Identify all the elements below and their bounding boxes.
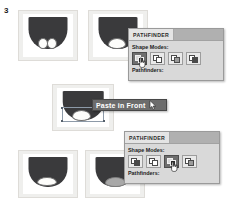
tab-pathfinder-label: PATHFINDER <box>129 135 165 141</box>
artboard-bottom-left <box>18 150 78 198</box>
shape-modes-button-row <box>132 52 220 65</box>
paste-in-front-tooltip[interactable]: Paste in Front <box>92 99 167 111</box>
unite-button[interactable] <box>128 155 143 168</box>
minus-front-icon <box>149 158 158 166</box>
unite-icon <box>131 158 140 166</box>
artboard-canvas <box>23 14 73 57</box>
pathfinders-label: Pathfinders: <box>128 169 216 177</box>
minus-front-button[interactable] <box>150 52 165 65</box>
minus-front-icon <box>153 55 162 63</box>
panel-titlebar-empty <box>170 132 219 143</box>
step-number: 3 <box>4 6 8 15</box>
intersect-button[interactable] <box>168 52 183 65</box>
intersect-icon <box>171 55 180 63</box>
panel-titlebar[interactable]: PATHFINDER <box>129 29 223 41</box>
selection-anchor <box>103 120 105 122</box>
shape-modes-button-row <box>128 155 216 168</box>
minus-front-button[interactable] <box>146 155 161 168</box>
panel-titlebar[interactable]: PATHFINDER <box>125 132 219 144</box>
selection-anchor <box>61 120 63 122</box>
tooltip-label: Paste in Front <box>96 102 145 109</box>
tab-pathfinder-label: PATHFINDER <box>133 32 169 38</box>
shape-modes-label: Shape Modes: <box>128 146 216 154</box>
selection-anchor <box>61 107 63 109</box>
tab-pathfinder[interactable]: PATHFINDER <box>129 29 174 40</box>
intersect-icon <box>167 158 176 166</box>
tab-pathfinder[interactable]: PATHFINDER <box>125 132 170 143</box>
arrow-cursor-icon <box>149 100 157 110</box>
pathfinder-panel-bottom[interactable]: PATHFINDER Shape Modes: <box>124 131 220 184</box>
panel-titlebar-empty <box>174 29 223 40</box>
exclude-button[interactable] <box>182 155 197 168</box>
exclude-icon <box>185 158 194 166</box>
panel-body: Shape Modes: <box>129 41 223 75</box>
knockout-blob-shape <box>105 177 126 187</box>
artboard-canvas <box>23 154 73 194</box>
artboard-top-left <box>18 10 78 61</box>
unite-button[interactable] <box>132 52 147 65</box>
united-blob-shape <box>108 38 127 49</box>
exclude-icon <box>189 55 198 63</box>
merged-blob-shape <box>37 177 57 186</box>
circle-right <box>47 38 57 49</box>
intersect-button[interactable] <box>164 155 179 168</box>
unite-icon <box>135 55 144 63</box>
shape-modes-label: Shape Modes: <box>132 43 220 51</box>
pathfinder-panel-top[interactable]: PATHFINDER Shape Modes: <box>128 28 224 81</box>
panel-body: Shape Modes: <box>125 144 219 178</box>
exclude-button[interactable] <box>186 52 201 65</box>
pathfinders-label: Pathfinders: <box>132 66 220 74</box>
